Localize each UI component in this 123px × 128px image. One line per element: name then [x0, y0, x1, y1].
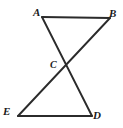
vertex-label-a: A	[33, 7, 40, 18]
vertex-label-d: D	[93, 110, 101, 121]
segment-AB	[42, 17, 110, 18]
figure-canvas	[0, 0, 123, 128]
figure-background	[0, 0, 123, 128]
vertex-label-e: E	[3, 106, 10, 117]
vertex-label-b: B	[109, 8, 116, 19]
geometry-figure: A B C E D	[0, 0, 123, 128]
vertex-label-c: C	[50, 59, 57, 70]
